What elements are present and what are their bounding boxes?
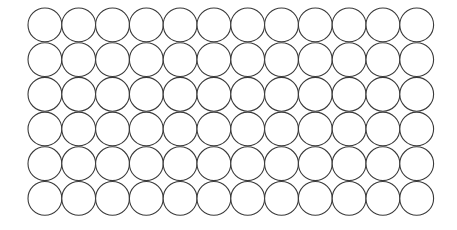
lattice-circle — [163, 43, 197, 77]
lattice-circle — [231, 182, 265, 216]
lattice-circle — [298, 182, 332, 216]
lattice-circle — [366, 8, 400, 42]
lattice-circle — [332, 147, 366, 181]
lattice-circle — [28, 8, 62, 42]
lattice-circle — [197, 77, 231, 111]
lattice-circle — [265, 112, 299, 146]
circle-lattice — [0, 0, 457, 230]
lattice-circle — [28, 182, 62, 216]
lattice-circle — [298, 147, 332, 181]
lattice-circle — [96, 43, 130, 77]
lattice-circle — [96, 8, 130, 42]
lattice-circle — [332, 43, 366, 77]
lattice-circle — [129, 182, 163, 216]
lattice-circle — [163, 77, 197, 111]
lattice-circle — [62, 182, 96, 216]
lattice-circle — [366, 147, 400, 181]
lattice-circle — [332, 8, 366, 42]
lattice-circle — [96, 112, 130, 146]
lattice-circle — [96, 147, 130, 181]
lattice-circle — [265, 43, 299, 77]
lattice-circle — [400, 147, 434, 181]
lattice-circle — [129, 43, 163, 77]
lattice-circle — [366, 182, 400, 216]
lattice-circle — [129, 112, 163, 146]
lattice-circle — [298, 43, 332, 77]
lattice-circle — [332, 77, 366, 111]
lattice-circle — [400, 77, 434, 111]
lattice-circle — [265, 147, 299, 181]
diagram-canvas — [0, 0, 457, 230]
lattice-circle — [400, 8, 434, 42]
lattice-circle — [129, 147, 163, 181]
lattice-circle — [163, 147, 197, 181]
lattice-circle — [163, 112, 197, 146]
lattice-circle — [129, 8, 163, 42]
lattice-circle — [62, 8, 96, 42]
lattice-circle — [28, 43, 62, 77]
lattice-circle — [62, 43, 96, 77]
lattice-circle — [366, 112, 400, 146]
lattice-circle — [366, 77, 400, 111]
lattice-circle — [298, 112, 332, 146]
lattice-circle — [197, 8, 231, 42]
lattice-circle — [197, 147, 231, 181]
lattice-circle — [163, 8, 197, 42]
lattice-circle — [62, 147, 96, 181]
lattice-circle — [197, 182, 231, 216]
lattice-circle — [231, 8, 265, 42]
lattice-circle — [298, 8, 332, 42]
lattice-circle — [197, 112, 231, 146]
lattice-circle — [400, 182, 434, 216]
lattice-circle — [129, 77, 163, 111]
lattice-circle — [366, 43, 400, 77]
lattice-circle — [265, 77, 299, 111]
lattice-circle — [62, 77, 96, 111]
lattice-circle — [231, 147, 265, 181]
lattice-circle — [62, 112, 96, 146]
lattice-circle — [298, 77, 332, 111]
lattice-circle — [231, 112, 265, 146]
lattice-circle — [28, 77, 62, 111]
lattice-circle — [96, 77, 130, 111]
lattice-circle — [231, 43, 265, 77]
lattice-circle — [28, 112, 62, 146]
lattice-circle — [96, 182, 130, 216]
lattice-circle — [197, 43, 231, 77]
lattice-circle — [332, 112, 366, 146]
lattice-circle — [163, 182, 197, 216]
lattice-circle — [332, 182, 366, 216]
lattice-circle — [28, 147, 62, 181]
lattice-circle — [265, 8, 299, 42]
lattice-circle — [231, 77, 265, 111]
lattice-circle — [400, 43, 434, 77]
lattice-circle — [400, 112, 434, 146]
lattice-circle — [265, 182, 299, 216]
